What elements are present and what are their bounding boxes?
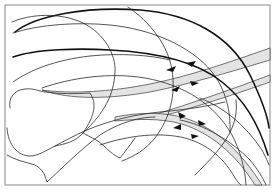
line-diagram [0, 0, 275, 190]
